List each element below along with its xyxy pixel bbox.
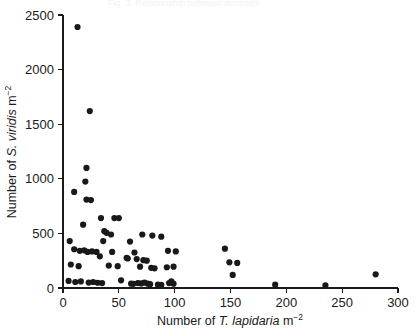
data-point	[144, 258, 150, 264]
data-point	[170, 264, 176, 270]
x-axis-title-species: T. lapidaria	[219, 314, 280, 328]
y-tick-label-2000: 2000	[25, 62, 54, 77]
data-point	[78, 278, 84, 284]
data-point	[322, 282, 328, 288]
data-point	[72, 279, 78, 285]
y-axis-title-superscript: −2	[3, 85, 13, 95]
data-point	[134, 256, 140, 262]
x-tick-label-200: 200	[275, 295, 297, 310]
data-point	[87, 108, 93, 114]
data-point	[125, 255, 131, 261]
y-tick-label-2500: 2500	[25, 8, 54, 23]
data-point	[83, 165, 89, 171]
data-point	[116, 215, 122, 221]
y-tick-label-0: 0	[47, 281, 54, 296]
x-axis-tick-labels: 050100150200250300	[59, 295, 408, 310]
y-axis-title-prefix: Number of	[5, 156, 19, 218]
data-point	[115, 263, 121, 269]
plot-canvas: 05001000150020002500 050100150200250300 …	[0, 0, 415, 334]
x-axis-title-superscript: −2	[293, 312, 303, 322]
svg-text:Number of T. lapidaria m−2: Number of T. lapidaria m−2	[157, 312, 303, 328]
data-point	[173, 248, 179, 254]
x-axis-title-prefix: Number of	[157, 314, 219, 328]
x-tick-label-100: 100	[164, 295, 186, 310]
data-point	[272, 282, 278, 288]
data-point	[131, 249, 137, 255]
data-point	[76, 263, 82, 269]
data-point	[170, 281, 176, 287]
data-point	[108, 231, 114, 237]
x-axis-title: Number of T. lapidaria m−2	[157, 312, 303, 328]
data-point	[149, 232, 155, 238]
data-point	[230, 272, 236, 278]
data-point	[234, 260, 240, 266]
data-point	[74, 24, 80, 30]
data-point	[158, 234, 164, 240]
data-point	[158, 282, 164, 288]
x-axis-ticks	[63, 288, 398, 293]
data-point-series	[65, 24, 378, 288]
x-axis-title-suffix: m	[279, 314, 293, 328]
data-point	[164, 264, 170, 270]
y-axis-tick-labels: 05001000150020002500	[25, 8, 54, 296]
data-point	[65, 278, 71, 284]
data-point	[82, 178, 88, 184]
data-point	[373, 271, 379, 277]
x-tick-label-250: 250	[331, 295, 353, 310]
y-tick-label-1000: 1000	[25, 171, 54, 186]
cropped-caption-text: Fig. 3. Relationship between densities	[108, 0, 348, 10]
data-point	[165, 248, 171, 254]
y-tick-label-1500: 1500	[25, 117, 54, 132]
data-point	[226, 259, 232, 265]
data-point	[151, 265, 157, 271]
data-point	[98, 215, 104, 221]
data-point	[80, 222, 86, 228]
data-point	[100, 238, 106, 244]
y-tick-label-500: 500	[32, 226, 54, 241]
data-point	[222, 246, 228, 252]
data-point	[99, 280, 105, 286]
data-point	[71, 189, 77, 195]
data-point	[68, 261, 74, 267]
data-point	[71, 246, 77, 252]
y-axis: 05001000150020002500	[25, 8, 63, 296]
y-axis-title-species: S. viridis	[5, 109, 19, 156]
data-point	[127, 238, 133, 244]
data-point	[137, 264, 143, 270]
data-point	[106, 263, 112, 269]
data-point	[139, 231, 145, 237]
y-axis-ticks	[58, 15, 63, 288]
data-point	[97, 253, 103, 259]
y-axis-title-suffix: m	[5, 95, 19, 109]
x-axis: 050100150200250300	[59, 288, 408, 310]
data-point	[67, 238, 73, 244]
scatter-plot-figure: Fig. 3. Relationship between densities 0…	[0, 0, 415, 334]
data-point	[109, 249, 115, 255]
x-tick-label-150: 150	[220, 295, 242, 310]
x-tick-label-300: 300	[387, 295, 409, 310]
x-tick-label-0: 0	[59, 295, 66, 310]
data-point	[88, 197, 94, 203]
data-point	[147, 281, 153, 287]
x-tick-label-50: 50	[112, 295, 126, 310]
y-axis-title: Number of S. viridis m−2	[3, 85, 19, 218]
svg-text:Number of S. viridis m−2: Number of S. viridis m−2	[3, 85, 19, 218]
data-point	[118, 277, 124, 283]
